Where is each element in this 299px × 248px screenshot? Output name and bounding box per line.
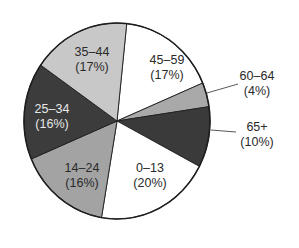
slice-label-percent: (16%)	[65, 176, 98, 190]
leader-line-60-64	[207, 84, 238, 93]
slice-label-65-plus: 65+ (10%)	[240, 120, 273, 149]
leader-line-65-plus	[211, 130, 236, 132]
slice-label-percent: (4%)	[244, 84, 270, 98]
slice-label-25-34: 25–34 (16%)	[35, 102, 70, 131]
slice-label-percent: (17%)	[75, 60, 108, 74]
slice-label-percent: (16%)	[35, 117, 68, 131]
slice-label-14-24: 14–24 (16%)	[65, 161, 100, 190]
slice-label-name: 60–64	[240, 69, 275, 83]
slice-label-45-59: 45–59 (17%)	[150, 53, 185, 82]
slice-label-name: 45–59	[150, 53, 185, 67]
slice-label-0-13: 0–13 (20%)	[133, 161, 166, 190]
slice-label-name: 14–24	[65, 161, 100, 175]
slice-label-percent: (17%)	[150, 68, 183, 82]
slice-label-name: 35–44	[75, 45, 110, 59]
slice-label-35-44: 35–44 (17%)	[75, 45, 110, 74]
slice-label-name: 0–13	[136, 161, 164, 175]
slice-label-60-64: 60–64 (4%)	[240, 69, 275, 98]
slice-label-name: 25–34	[35, 102, 70, 116]
pie-chart: 45–59 (17%) 60–64 (4%) 65+ (10%) 0–13 (2…	[0, 0, 299, 248]
slice-label-name: 65+	[246, 120, 267, 134]
slice-label-percent: (20%)	[133, 176, 166, 190]
slice-label-percent: (10%)	[240, 135, 273, 149]
